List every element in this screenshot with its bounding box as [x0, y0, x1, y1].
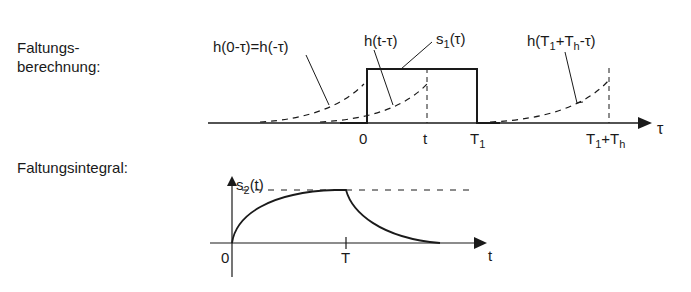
- leader-h-zero: [306, 55, 329, 105]
- convolution-diagram: h(0-τ)=h(-τ) h(t-τ) s1(τ) h(T1+Th-τ) 0 t…: [0, 0, 691, 292]
- h-T1Th-curve: [490, 80, 609, 122]
- t-axis-arrow-icon: [474, 237, 487, 249]
- s2-curve: [232, 190, 440, 243]
- axis-label-s2: s2(t): [236, 176, 264, 196]
- s1-rectangle: [340, 69, 500, 123]
- bottom-plot: s2(t) 0 T t: [210, 176, 493, 277]
- tick-label-zero-bottom: 0: [221, 249, 229, 266]
- tick-label-T: T: [341, 249, 350, 266]
- top-plot: h(0-τ)=h(-τ) h(t-τ) s1(τ) h(T1+Th-τ) 0 t…: [208, 30, 664, 150]
- annotation-h-zero: h(0-τ)=h(-τ): [213, 38, 289, 55]
- annotation-s1: s1(τ): [436, 30, 466, 50]
- annotation-h-T1Th: h(T1+Th-τ): [527, 32, 596, 52]
- h-t-curve: [320, 84, 427, 122]
- annotation-h-t: h(t-τ): [364, 32, 397, 49]
- axis-label-tau: τ: [657, 120, 664, 137]
- leader-h-T1Th: [565, 52, 577, 103]
- tick-label-T1Th: T1+Th: [586, 130, 625, 150]
- tick-label-t: t: [423, 130, 428, 147]
- tau-axis-arrow-icon: [638, 117, 652, 129]
- tick-label-zero: 0: [359, 130, 367, 147]
- leader-h-t: [374, 50, 393, 105]
- h-zero-curve: [260, 84, 364, 122]
- axis-label-t: t: [488, 247, 493, 264]
- tick-label-T1: T1: [470, 130, 485, 150]
- leader-h-T1Th-tick: [577, 102, 583, 103]
- leader-s1: [401, 42, 432, 69]
